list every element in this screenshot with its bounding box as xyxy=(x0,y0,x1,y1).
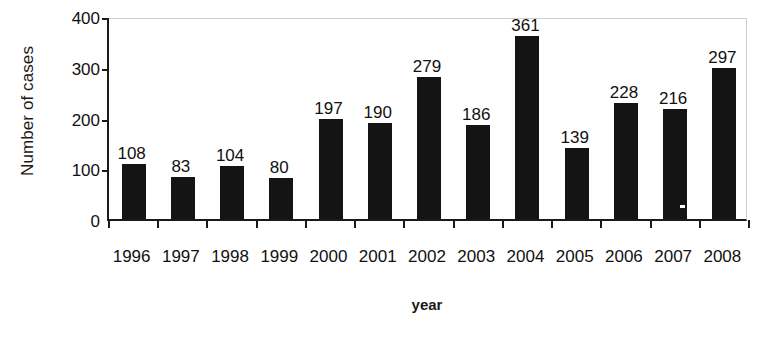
bar-artifact-speck xyxy=(680,205,685,208)
bar-value-label: 297 xyxy=(696,49,748,66)
x-axis-tick-mark xyxy=(650,220,652,228)
bar xyxy=(220,166,244,219)
bar-value-label: 279 xyxy=(401,58,453,75)
y-axis-tick-label: 200 xyxy=(52,111,100,128)
bar xyxy=(565,148,589,219)
x-axis-tick-mark xyxy=(305,220,307,228)
x-axis-tick-label: 1999 xyxy=(255,248,304,265)
x-axis-tick-label: 2004 xyxy=(501,248,550,265)
bar xyxy=(417,77,441,219)
x-axis-tick-label: 2005 xyxy=(550,248,599,265)
bar xyxy=(663,109,687,219)
y-axis-tick-mark xyxy=(102,120,109,122)
bar xyxy=(269,178,293,219)
bar xyxy=(712,68,736,219)
x-axis-tick-mark xyxy=(502,220,504,228)
y-axis-title: Number of cases xyxy=(0,0,56,221)
x-axis-tick-mark xyxy=(157,220,159,228)
y-axis-tick-label: 400 xyxy=(52,10,100,27)
x-axis-tick-labels: 1996199719981999200020012002200320042005… xyxy=(107,248,747,270)
bar xyxy=(515,36,539,219)
x-axis-title: year xyxy=(107,296,747,313)
bar xyxy=(614,103,638,219)
bar xyxy=(171,177,195,219)
x-axis-tick-mark xyxy=(551,220,553,228)
x-axis-tick-label: 2002 xyxy=(403,248,452,265)
bar-value-label: 190 xyxy=(352,104,404,121)
bar-value-label: 108 xyxy=(106,145,158,162)
bar-value-label: 80 xyxy=(253,159,305,176)
bar-value-label: 83 xyxy=(155,158,207,175)
y-axis-tick-label: 300 xyxy=(52,60,100,77)
x-axis-tick-mark xyxy=(748,220,750,228)
bar-value-label: 197 xyxy=(303,100,355,117)
bar-value-label: 361 xyxy=(499,17,551,34)
y-axis-tick-mark xyxy=(102,18,109,20)
bar-value-label: 228 xyxy=(598,84,650,101)
bar xyxy=(122,164,146,219)
x-axis-tick-mark xyxy=(206,220,208,228)
x-axis-tick-label: 2008 xyxy=(698,248,747,265)
bar-chart-figure: Number of cases 0100200300400 1996199719… xyxy=(0,0,768,346)
x-axis-tick-label: 1996 xyxy=(107,248,156,265)
x-axis-tick-label: 2006 xyxy=(599,248,648,265)
x-axis-tick-label: 2003 xyxy=(452,248,501,265)
x-axis-tick-label: 1997 xyxy=(156,248,205,265)
bar xyxy=(466,125,490,219)
bar xyxy=(368,123,392,219)
y-axis-tick-labels: 0100200300400 xyxy=(50,0,100,346)
x-axis-tick-mark xyxy=(600,220,602,228)
bar-value-label: 216 xyxy=(647,90,699,107)
x-axis-tick-label: 2007 xyxy=(649,248,698,265)
x-axis-tick-label: 2000 xyxy=(304,248,353,265)
x-axis-tick-mark xyxy=(108,220,110,228)
bar-value-label: 139 xyxy=(549,129,601,146)
x-axis-tick-mark xyxy=(453,220,455,228)
x-axis-tick-label: 1998 xyxy=(206,248,255,265)
x-axis-tick-mark xyxy=(256,220,258,228)
plot-area xyxy=(107,18,747,221)
x-axis-tick-label: 2001 xyxy=(353,248,402,265)
x-axis-tick-mark xyxy=(403,220,405,228)
y-axis-tick-label: 100 xyxy=(52,162,100,179)
y-axis-tick-mark xyxy=(102,69,109,71)
bar xyxy=(319,119,343,219)
bar-value-label: 104 xyxy=(204,147,256,164)
x-axis-tick-mark xyxy=(699,220,701,228)
bar-value-label: 186 xyxy=(450,106,502,123)
y-axis-tick-mark xyxy=(102,170,109,172)
y-axis-title-text: Number of cases xyxy=(18,46,38,176)
x-axis-tick-mark xyxy=(354,220,356,228)
y-axis-tick-label: 0 xyxy=(52,213,100,230)
